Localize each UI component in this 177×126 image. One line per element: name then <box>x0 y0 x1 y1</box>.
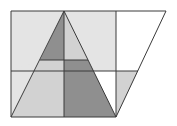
diagram-canvas <box>0 0 177 126</box>
right-slant-edge-line <box>116 11 166 117</box>
geometry-diagram <box>0 0 177 126</box>
